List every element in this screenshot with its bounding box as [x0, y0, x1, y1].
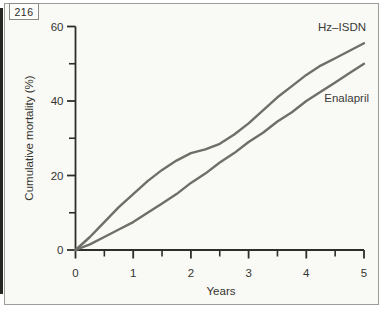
- mortality-line-chart: 0123450204060 Cumulative mortality (%) Y…: [0, 0, 388, 319]
- y-tick-label: 40: [51, 95, 64, 107]
- series-curve-0: [76, 43, 365, 250]
- series-label-enalapril: Enalapril: [324, 92, 369, 104]
- x-tick-label: 5: [361, 267, 367, 279]
- plot-area: 0123450204060: [51, 21, 368, 280]
- x-tick-label: 2: [188, 267, 194, 279]
- y-tick-label: 60: [51, 21, 64, 33]
- x-tick-label: 1: [130, 267, 136, 279]
- series-label-hz-isdn: Hz–ISDN: [318, 21, 366, 33]
- x-axis-title: Years: [207, 285, 236, 297]
- y-tick-label: 20: [51, 170, 64, 182]
- y-axis-title: Cumulative mortality (%): [23, 75, 35, 200]
- scanned-figure-page: 216 0123450204060 Cumulative mortality (…: [0, 0, 388, 319]
- x-tick-label: 4: [303, 267, 310, 279]
- x-tick-label: 0: [72, 267, 78, 279]
- series-curve-1: [76, 64, 365, 250]
- y-tick-label: 0: [57, 244, 63, 256]
- x-tick-label: 3: [245, 267, 251, 279]
